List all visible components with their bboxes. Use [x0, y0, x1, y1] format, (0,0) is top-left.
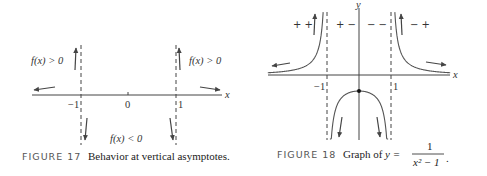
fig18-arrow-down-left [339, 117, 342, 137]
fig18-caption-numerator: 1 [427, 140, 433, 152]
fig17-arrow-far-left [34, 87, 55, 90]
fig18-sign-region-1: + + [293, 19, 313, 30]
fig17-tick-label-0: 0 [125, 99, 130, 110]
fig18-arrow-up-left [314, 14, 315, 35]
fig18-caption-text: Graph of [343, 148, 383, 160]
fig17-arrow-far-right [200, 87, 220, 90]
fig18-arrow-far-right [426, 62, 446, 65]
fig18-x-axis-label: x [452, 69, 458, 80]
figure-18: x y −1 1 + + + − − − − + FIGURE 18 Graph… [268, 0, 458, 168]
fig18-sign-region-3: − − [367, 19, 387, 30]
fig18-tick-label-neg1: −1 [314, 81, 325, 92]
fig17-arrow-up-left [75, 48, 76, 70]
fig18-caption-period: . [446, 152, 449, 164]
fig17-label-lower-middle: f(x) < 0 [110, 133, 143, 145]
fig18-arrow-up-right [401, 14, 402, 35]
fig17-label-upper-right: f(x) > 0 [189, 55, 222, 67]
fig18-sign-region-2: + − [336, 19, 356, 30]
fig18-point-y-intercept [357, 89, 361, 93]
fig17-label-upper-left: f(x) > 0 [31, 55, 64, 67]
fig17-tick-label-neg1: −1 [68, 99, 79, 110]
fig18-arrow-far-left [272, 63, 290, 66]
fig18-caption-label: FIGURE 18 [277, 149, 336, 160]
fig17-arrow-down-left [85, 118, 87, 140]
fig18-y-axis-label: y [355, 0, 361, 10]
fig17-caption-label: FIGURE 17 [22, 151, 81, 162]
fig17-x-axis-label: x [224, 89, 230, 100]
fig18-arrow-down-right [377, 117, 380, 137]
fig17-caption-text: Behavior at vertical asymptotes. [88, 150, 230, 162]
fig18-tick-label-1: 1 [393, 81, 398, 92]
figures-canvas: x −1 0 1 f(x) > 0 f(x) > 0 f(x) < 0 FIGU… [0, 0, 487, 176]
figure-17: x −1 0 1 f(x) > 0 f(x) > 0 f(x) < 0 FIGU… [22, 45, 230, 162]
fig18-caption-eq-lhs: y = [384, 148, 400, 160]
fig17-arrow-down-right [170, 118, 173, 140]
fig18-caption-denominator: x² − 1 [412, 156, 440, 168]
fig17-arrow-up-right [179, 48, 180, 70]
fig17-tick-label-1: 1 [178, 99, 183, 110]
fig18-sign-region-4: − + [410, 19, 430, 30]
